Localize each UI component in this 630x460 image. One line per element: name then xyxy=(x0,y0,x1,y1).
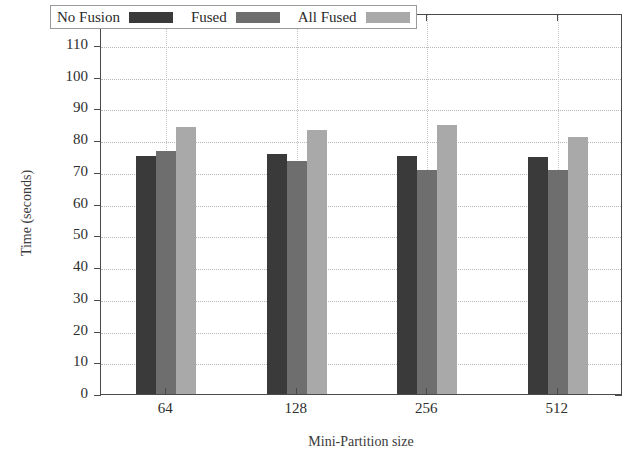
bar xyxy=(136,156,156,394)
y-axis-tick-label: 100 xyxy=(32,68,88,85)
x-axis-tick-label: 256 xyxy=(391,400,461,417)
bar xyxy=(417,170,437,394)
plot-area xyxy=(100,14,622,395)
x-axis-tick-mark xyxy=(557,388,558,395)
gridline xyxy=(101,110,621,111)
x-axis-tick-label: 512 xyxy=(522,400,592,417)
legend-entry: Fused xyxy=(191,6,298,28)
y-axis-tick-label: 70 xyxy=(32,163,88,180)
y-axis-tick-label: 50 xyxy=(32,226,88,243)
legend-label: All Fused xyxy=(298,9,357,26)
bar xyxy=(267,154,287,394)
chart-legend: No FusionFusedAll Fused xyxy=(50,5,417,29)
gridline xyxy=(101,47,621,48)
legend-swatch xyxy=(236,12,280,23)
bar xyxy=(568,137,588,394)
y-axis-tick-label: 60 xyxy=(32,195,88,212)
bar xyxy=(307,130,327,394)
y-axis-tick-label: 20 xyxy=(32,322,88,339)
legend-swatch xyxy=(129,12,173,23)
bar xyxy=(176,127,196,394)
x-axis-tick-mark xyxy=(426,14,427,21)
y-axis-tick-label: 90 xyxy=(32,99,88,116)
legend-label: No Fusion xyxy=(57,9,120,26)
bar xyxy=(287,161,307,394)
x-axis-tick-label: 64 xyxy=(130,400,200,417)
bar xyxy=(397,156,417,394)
legend-entry: All Fused xyxy=(298,6,410,28)
y-axis-tick-label: 40 xyxy=(32,258,88,275)
bar xyxy=(548,170,568,394)
y-axis-tick-label: 10 xyxy=(32,353,88,370)
x-axis-tick-mark xyxy=(426,388,427,395)
bar-chart-figure: Time (seconds) 0102030405060708090100110… xyxy=(0,0,630,460)
bar xyxy=(528,157,548,394)
x-axis-tick-mark xyxy=(557,14,558,21)
y-axis-tick-label: 80 xyxy=(32,131,88,148)
x-axis-tick-label: 128 xyxy=(261,400,331,417)
y-axis-tick-mark xyxy=(615,395,622,396)
y-axis-tick-label: 30 xyxy=(32,290,88,307)
x-axis-tick-mark xyxy=(296,388,297,395)
legend-label: Fused xyxy=(191,9,227,26)
bar xyxy=(437,125,457,394)
legend-entry: No Fusion xyxy=(57,6,191,28)
gridline xyxy=(101,79,621,80)
y-axis-tick-label: 110 xyxy=(32,36,88,53)
x-axis-tick-mark xyxy=(165,388,166,395)
y-axis-tick-label: 0 xyxy=(32,385,88,402)
bar xyxy=(156,151,176,394)
y-axis-tick-mark xyxy=(94,395,101,396)
legend-swatch xyxy=(366,12,410,23)
x-axis-title: Mini-Partition size xyxy=(100,434,622,450)
